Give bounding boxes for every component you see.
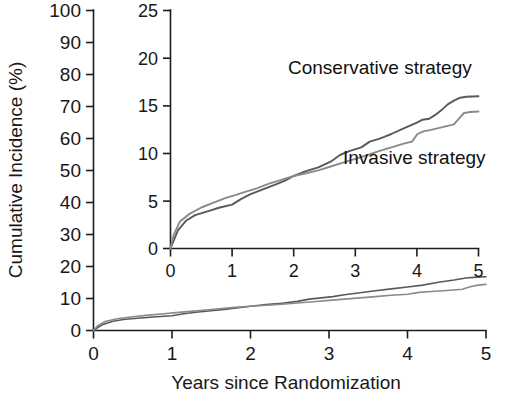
inset-x-tick-4: 4 <box>412 261 422 281</box>
main-series-curves <box>94 277 487 331</box>
inset-x-tick-0: 0 <box>165 261 175 281</box>
y-tick-70: 70 <box>60 96 81 117</box>
y-tick-60: 60 <box>60 128 81 149</box>
x-axis-title: Years since Randomization <box>171 372 401 393</box>
inset-y-tick-25: 25 <box>138 1 158 21</box>
y-tick-10: 10 <box>60 288 81 309</box>
inset-x-tick-labels: 0 1 2 3 4 5 <box>165 261 483 281</box>
inset-y-tick-20: 20 <box>138 49 158 69</box>
y-tick-90: 90 <box>60 32 81 53</box>
y-tick-40: 40 <box>60 192 81 213</box>
series-label-conservative: Conservative strategy <box>288 57 472 78</box>
chart-svg: 100 90 80 70 60 50 40 30 20 10 0 <box>0 0 509 397</box>
inset-y-tick-15: 15 <box>138 96 158 116</box>
x-tick-1: 1 <box>167 343 178 364</box>
x-tick-2: 2 <box>245 343 256 364</box>
main-y-ticks <box>86 11 94 331</box>
main-x-tick-labels: 0 1 2 3 4 5 <box>88 343 491 364</box>
main-curve-invasive <box>94 284 487 330</box>
inset-y-tick-10: 10 <box>138 144 158 164</box>
main-y-tick-labels: 100 90 80 70 60 50 40 30 20 10 0 <box>49 0 81 341</box>
main-x-ticks <box>94 331 487 339</box>
inset-y-tick-5: 5 <box>148 192 158 212</box>
x-tick-5: 5 <box>481 343 492 364</box>
inset-x-tick-3: 3 <box>350 261 360 281</box>
inset-x-tick-2: 2 <box>289 261 299 281</box>
y-tick-30: 30 <box>60 224 81 245</box>
inset-panel: 25 20 15 10 5 0 0 1 2 3 <box>133 0 509 281</box>
inset-x-tick-1: 1 <box>227 261 237 281</box>
y-tick-50: 50 <box>60 160 81 181</box>
x-tick-3: 3 <box>324 343 335 364</box>
y-tick-80: 80 <box>60 64 81 85</box>
inset-y-tick-0: 0 <box>148 239 158 259</box>
series-label-invasive: Invasive strategy <box>343 147 486 168</box>
inset-x-tick-5: 5 <box>473 261 483 281</box>
y-tick-0: 0 <box>70 320 81 341</box>
cumulative-incidence-figure: 100 90 80 70 60 50 40 30 20 10 0 <box>0 0 509 397</box>
x-tick-0: 0 <box>88 343 99 364</box>
y-tick-100: 100 <box>49 0 81 21</box>
y-axis-title: Cumulative Incidence (%) <box>5 62 26 278</box>
x-tick-4: 4 <box>402 343 413 364</box>
y-tick-20: 20 <box>60 256 81 277</box>
